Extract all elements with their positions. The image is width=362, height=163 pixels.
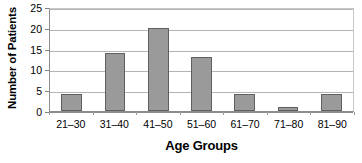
x-axis-tick-mark	[354, 112, 355, 115]
x-axis-tick-mark	[310, 112, 311, 115]
y-axis-tick-mark	[45, 29, 49, 30]
y-axis-tick-mark	[45, 112, 49, 113]
y-axis-tick-label: 15	[20, 45, 42, 55]
bar-slot	[50, 9, 93, 111]
y-axis-tick-mark	[45, 8, 49, 9]
bar[interactable]	[321, 94, 342, 111]
y-axis-tick-label: 0	[20, 107, 42, 117]
plot-area	[49, 8, 354, 112]
x-axis-tick-label: 41–50	[136, 117, 180, 131]
bar-slot	[223, 9, 266, 111]
y-axis-tick-label: 20	[20, 24, 42, 34]
x-axis-tick-label: 31–40	[93, 117, 137, 131]
bar-slot	[310, 9, 353, 111]
x-axis-tick-label: 61–70	[223, 117, 267, 131]
bar-slot	[180, 9, 223, 111]
x-axis-tick-label: 21–30	[49, 117, 93, 131]
x-axis-tick-label: 71–80	[267, 117, 311, 131]
x-axis-tick-mark	[93, 112, 94, 115]
bar[interactable]	[278, 107, 299, 111]
y-axis-tick-label: 10	[20, 65, 42, 75]
bar[interactable]	[105, 53, 126, 111]
x-axis-tick-label: 81–90	[310, 117, 354, 131]
bar-slot	[266, 9, 309, 111]
y-axis-tick-label: 25	[20, 3, 42, 13]
bars-layer	[50, 9, 353, 111]
bar[interactable]	[234, 94, 255, 111]
bar-slot	[93, 9, 136, 111]
y-axis-tick-mark	[45, 70, 49, 71]
x-axis-tick-mark	[267, 112, 268, 115]
bar[interactable]	[191, 57, 212, 111]
x-axis-tick-label: 51–60	[180, 117, 224, 131]
bar[interactable]	[148, 28, 169, 111]
y-axis-title: Number of Patients	[4, 0, 20, 118]
x-axis-tick-mark	[180, 112, 181, 115]
x-axis-tick-marks	[49, 112, 354, 116]
y-axis-tick-label: 5	[20, 86, 42, 96]
y-axis-tick-mark	[45, 91, 49, 92]
y-axis-tick-labels: 0510152025	[20, 8, 42, 112]
x-axis-tick-mark	[223, 112, 224, 115]
x-axis-tick-labels: 21–3031–4041–5051–6061–7071–8081–90	[49, 117, 354, 131]
bar-chart: Number of Patients 0510152025 21–3031–40…	[0, 0, 362, 163]
x-axis-title: Age Groups	[49, 138, 354, 153]
bar[interactable]	[61, 94, 82, 111]
bar-slot	[137, 9, 180, 111]
x-axis-tick-mark	[49, 112, 50, 115]
x-axis-tick-mark	[136, 112, 137, 115]
y-axis-tick-mark	[45, 50, 49, 51]
